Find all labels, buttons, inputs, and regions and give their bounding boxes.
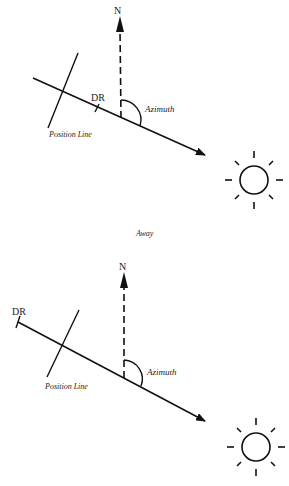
position-line <box>47 310 79 377</box>
position-line-label: Position Line <box>48 130 92 139</box>
diagram-bottom: N DR Azimuth Position Line <box>12 261 285 476</box>
sun-icon <box>227 418 285 476</box>
azimuth-line <box>33 78 205 155</box>
intercept-diagram: N DR Azimuth Position Line Away <box>0 0 289 486</box>
diagram-top: N DR Azimuth Position Line <box>33 5 283 209</box>
azimuth-label: Azimuth <box>144 104 175 114</box>
caption-away: Away <box>135 229 154 238</box>
azimuth-label: Azimuth <box>146 367 177 377</box>
azimuth-line <box>18 322 205 421</box>
north-label: N <box>119 261 126 272</box>
north-arrowhead <box>120 272 128 288</box>
position-line-label: Position Line <box>44 382 88 391</box>
sun-icon <box>225 151 283 209</box>
dr-label: DR <box>12 306 26 317</box>
north-arrowhead <box>116 16 124 32</box>
dr-label: DR <box>91 92 105 103</box>
north-label: N <box>114 5 121 16</box>
north-line <box>120 30 121 118</box>
position-line <box>48 53 78 128</box>
